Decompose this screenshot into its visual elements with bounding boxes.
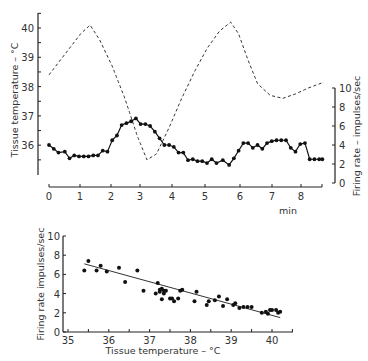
left-tick-label: 36: [21, 140, 34, 151]
data-point: [210, 157, 214, 161]
scatter-point: [241, 305, 245, 309]
scatter-point: [105, 270, 109, 274]
data-point: [57, 151, 61, 155]
y-tick-label: 2: [54, 308, 60, 319]
data-point: [72, 154, 76, 158]
scatter-point: [164, 289, 168, 293]
scatter-point: [266, 312, 270, 316]
x-axis: 012345678: [46, 184, 322, 202]
scatter-point: [225, 297, 229, 301]
data-point: [96, 154, 100, 158]
data-point: [265, 141, 269, 145]
data-point: [162, 143, 166, 147]
data-point: [205, 161, 209, 165]
scatter-point: [176, 296, 180, 300]
right-tick-label: 0: [339, 178, 345, 189]
data-point: [153, 130, 157, 134]
data-point: [227, 163, 231, 167]
data-point: [246, 141, 250, 145]
data-point: [120, 123, 124, 127]
x-tick-label: 0: [46, 191, 52, 202]
scatter-point: [86, 259, 90, 263]
scatter-point: [217, 294, 221, 298]
data-point: [106, 150, 110, 154]
data-point: [320, 157, 324, 161]
right-y-axis: 0246810: [332, 83, 352, 189]
x-tick-label: 1: [77, 191, 83, 202]
data-point: [181, 151, 185, 155]
scatter-point: [270, 308, 274, 312]
data-point: [87, 155, 91, 159]
scatter-points: [82, 259, 282, 316]
scatter-point: [160, 297, 164, 301]
scatter-point: [117, 266, 121, 270]
scatter-point: [123, 280, 127, 284]
right-tick-label: 10: [339, 83, 352, 94]
data-point: [308, 157, 312, 161]
bottom-chart: 0246810 353637383940 Firing rate impulse…: [35, 228, 293, 356]
x-tick-label: 39: [225, 335, 238, 346]
data-point: [77, 155, 81, 159]
scatter-point: [135, 269, 139, 273]
data-point: [256, 143, 260, 147]
right-tick-label: 4: [339, 140, 345, 151]
left-tick-label: 39: [21, 52, 34, 63]
data-point: [143, 122, 147, 126]
x-tick-label: 2: [108, 191, 114, 202]
right-tick-label: 6: [339, 121, 345, 132]
y-tick-label: 6: [54, 269, 60, 280]
data-point: [139, 122, 143, 126]
data-point: [303, 141, 307, 145]
data-point: [237, 149, 241, 153]
data-point: [251, 146, 255, 150]
data-point: [63, 150, 67, 154]
data-point: [260, 147, 264, 151]
x-tick-label: 4: [169, 191, 175, 202]
scatter-y-axis: 0246810: [47, 231, 66, 338]
data-point: [200, 159, 204, 163]
left-y-axis-label: Tissue temperature – °C: [9, 42, 20, 158]
scatter-point: [172, 299, 176, 303]
data-point: [129, 119, 133, 123]
data-point: [101, 149, 105, 153]
scatter-point: [246, 305, 250, 309]
scatter-x-axis: 353637383940: [62, 329, 293, 346]
y-tick-label: 8: [54, 250, 60, 261]
x-tick-label: 40: [266, 335, 279, 346]
data-point: [172, 145, 176, 149]
scatter-point: [260, 311, 264, 315]
scatter-point: [205, 303, 209, 307]
data-point: [91, 154, 95, 158]
data-point: [275, 138, 279, 142]
data-point: [186, 158, 190, 162]
y-tick-label: 4: [54, 289, 60, 300]
data-point: [125, 121, 129, 125]
scatter-point: [95, 269, 99, 273]
data-point: [294, 150, 298, 154]
x-axis-label: min: [279, 205, 297, 216]
scatter-point: [180, 288, 184, 292]
data-point: [191, 157, 195, 161]
left-tick-label: 40: [21, 23, 34, 34]
data-point: [158, 136, 162, 140]
scatter-point: [278, 310, 282, 314]
data-point: [279, 138, 283, 142]
data-point: [241, 141, 245, 145]
scatter-point: [207, 299, 211, 303]
data-point: [134, 117, 138, 121]
x-tick-label: 3: [137, 191, 143, 202]
scatter-point: [192, 299, 196, 303]
data-point: [47, 143, 51, 147]
left-y-axis: 3637383940: [21, 13, 41, 175]
scatter-point: [82, 269, 86, 273]
scatter-x-axis-label: Tissue temperature – °C: [105, 345, 221, 356]
x-tick-label: 6: [237, 191, 243, 202]
scatter-point: [195, 290, 199, 294]
scatter-point: [156, 281, 160, 285]
data-point: [68, 156, 72, 160]
data-point: [215, 161, 219, 165]
y-tick-label: 0: [54, 327, 60, 338]
data-point: [82, 155, 86, 159]
right-tick-label: 8: [339, 102, 345, 113]
data-point: [110, 138, 114, 142]
